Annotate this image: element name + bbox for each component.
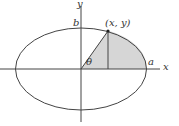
point-marker bbox=[106, 29, 109, 32]
b-label: b bbox=[73, 18, 79, 28]
y-axis-label: y bbox=[77, 0, 83, 9]
ellipse-diagram: y b (x, y) θ a x bbox=[0, 0, 179, 126]
x-axis-label: x bbox=[163, 62, 169, 72]
theta-label: θ bbox=[86, 57, 92, 67]
point-label: (x, y) bbox=[105, 18, 130, 28]
a-label: a bbox=[148, 57, 154, 67]
